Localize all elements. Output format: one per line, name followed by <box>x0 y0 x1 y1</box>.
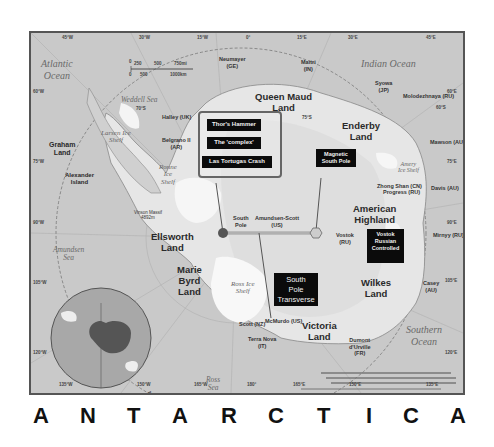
station-mirnyy: Mirnyy (RU) <box>433 232 464 239</box>
sea-line: Sea <box>206 384 220 392</box>
station-line: Pole <box>233 222 249 229</box>
coord-top-15e: 15°E <box>297 36 307 41</box>
shelf-ronne: Ronne Ice Shelf <box>159 164 177 186</box>
station-line: (AU) <box>423 287 439 294</box>
annotation-magnetic-south-pole[interactable]: Magnetic South Pole <box>316 149 356 167</box>
sea-label-amundsen: Amundsen Sea <box>53 246 84 261</box>
region-line: Highland <box>353 215 396 226</box>
region-line: Land <box>342 132 380 143</box>
station-line: Terra Nova <box>248 336 276 343</box>
coord-bottom-135w: 135°W <box>59 383 73 388</box>
shelf-line: Shelf <box>159 179 177 186</box>
region-line: Graham <box>49 141 75 149</box>
annotation-thors-hammer[interactable]: Thor's Hammer <box>207 119 261 131</box>
title-letter: R <box>221 403 237 429</box>
title-letter: A <box>33 403 49 429</box>
annotation-line: Vostok <box>370 231 401 238</box>
scale-tick-top-750: 750mi <box>174 62 187 67</box>
region-victoria-land: Victoria Land <box>302 321 337 343</box>
annotation-line: South Pole <box>319 158 353 165</box>
title-letter: C <box>403 403 419 429</box>
shelf-amery: Amery Ice Shelf <box>398 161 419 174</box>
station-progress: Progress (RU) <box>383 189 420 196</box>
title-letter: T <box>127 403 140 429</box>
station-line: South <box>233 215 249 222</box>
coord-right-90e: 90°E <box>447 221 457 226</box>
region-line: Land <box>151 243 194 254</box>
station-line: (FR) <box>349 350 370 357</box>
station-line: (RU) <box>336 239 354 246</box>
coord-inner-70s: 70°S <box>136 107 146 112</box>
region-alexander-island: Alexander Island <box>65 172 94 186</box>
region-ellsworth-land: Ellsworth Land <box>151 232 194 254</box>
station-line: Belgrano II <box>162 137 190 144</box>
station-line: Vostok <box>336 232 354 239</box>
scale-tick-bottom-1000: 1000km <box>170 73 187 78</box>
coord-left-75w: 75°W <box>33 160 44 165</box>
region-wilkes-land: Wilkes Land <box>361 278 391 300</box>
coord-bottom-150w: 150°W <box>137 383 151 388</box>
station-line: Syowa <box>375 80 392 87</box>
annotation-the-complex[interactable]: The 'complex' <box>207 137 261 149</box>
coord-bottom-150e: 150°E <box>349 383 361 388</box>
station-line: Neumayer <box>219 56 246 63</box>
coord-top-45e: 45°E <box>426 36 436 41</box>
ocean-line: Southern <box>406 324 442 336</box>
coord-left-120w: 120°W <box>33 351 47 356</box>
region-line: Land <box>49 149 75 157</box>
station-scott: Scott (NZ) <box>239 321 265 328</box>
station-line: Dumont <box>349 337 370 344</box>
coord-top-0: 0° <box>246 36 250 41</box>
region-line: Alexander <box>65 172 94 179</box>
coord-top-15w: 15°W <box>197 36 208 41</box>
coord-bottom-135e: 135°E <box>426 383 438 388</box>
annotation-south-pole-transverse[interactable]: South Pole Transverse <box>274 273 318 306</box>
station-line: (US) <box>255 222 299 229</box>
station-vinson-massif: Vinson Massif 4892m <box>134 210 162 221</box>
coord-left-90w: 90°W <box>33 221 44 226</box>
region-graham-land: Graham Land <box>49 141 75 157</box>
region-american-highland: American Highland <box>353 204 396 226</box>
coord-inner-75s: 75°S <box>302 116 312 121</box>
coord-top-30e: 30°E <box>348 36 358 41</box>
station-line: (GE) <box>219 63 246 70</box>
coord-bottom-180: 180° <box>247 383 256 388</box>
station-maitri: Maitri (IN) <box>301 59 316 72</box>
station-belgrano: Belgrano II (AR) <box>162 137 190 150</box>
map-title: A N T A R C T I C A <box>0 403 494 433</box>
coord-right-60e: 60°E <box>447 90 457 95</box>
title-letter: N <box>80 403 96 429</box>
shelf-larsen: Larsen Ice Shelf <box>101 130 131 145</box>
annotation-line: Russian <box>370 238 401 245</box>
shelf-line: Shelf <box>231 288 255 295</box>
annotation-las-tortugas-crash[interactable]: Las Tortugas Crash <box>202 156 272 168</box>
station-line: (IT) <box>248 343 276 350</box>
station-vostok: Vostok (RU) <box>336 232 354 245</box>
title-letter: T <box>317 403 330 429</box>
annotation-vostok-russian-controlled[interactable]: Vostok Russian Controlled <box>367 229 404 263</box>
title-letter: A <box>172 403 188 429</box>
coord-top-45w: 45°W <box>62 36 73 41</box>
region-marie-byrd-land: Marie Byrd Land <box>177 265 202 298</box>
annotation-line: South <box>277 275 315 285</box>
sea-label-ross: Ross Sea <box>206 376 220 391</box>
coord-left-105w: 105°W <box>33 281 47 286</box>
region-line: Land <box>361 289 391 300</box>
region-line: Land <box>302 332 337 343</box>
station-line: (JP) <box>375 87 392 94</box>
station-south-pole: South Pole <box>233 215 249 228</box>
scale-tick-bottom-0: 0 <box>129 73 132 78</box>
station-line: Maitri <box>301 59 316 66</box>
region-line: Land <box>177 287 202 298</box>
station-terra-nova: Terra Nova (IT) <box>248 336 276 349</box>
ocean-label-atlantic: Atlantic Ocean <box>41 58 73 82</box>
region-enderby-land: Enderby Land <box>342 121 380 143</box>
scale-tick-top-0: 0 <box>129 60 132 65</box>
scale-tick-bottom-500: 500 <box>140 73 148 78</box>
coord-top-30w: 30°W <box>139 36 150 41</box>
station-line: (IN) <box>301 66 316 73</box>
station-syowa: Syowa (JP) <box>375 80 392 93</box>
coord-left-60w: 60°W <box>33 90 44 95</box>
title-letter: A <box>450 403 466 429</box>
coord-bottom-165e: 165°E <box>293 383 305 388</box>
